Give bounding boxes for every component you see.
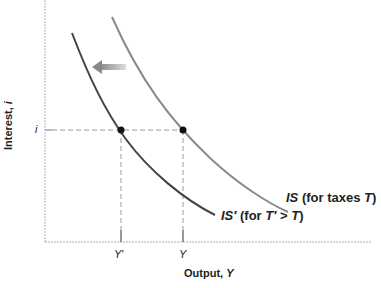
y-axis-label: Interest, i [2,101,14,150]
x-tick-label-y: Y [179,248,186,260]
chart-canvas [0,0,381,288]
is-curve-label: IS (for taxes T) [286,190,376,205]
x-tick-label-y-prime: Y′ [114,248,123,260]
is-curve [112,17,288,212]
shift-left-arrow-icon [92,60,126,74]
x-axis-label: Output, Y [184,267,234,279]
is-prime-curve-label: IS′ (for T′ > T) [221,208,303,223]
is-prime-curve [72,33,215,215]
equilibrium-point-is-prime [118,127,125,134]
y-tick-label-i: i [35,123,37,135]
equilibrium-point-is [180,127,187,134]
